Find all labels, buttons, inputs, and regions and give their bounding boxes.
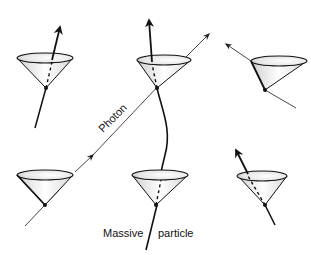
particle-label: particle [158,227,193,239]
photon-label: Photon [96,101,129,134]
light-cone-bottom-middle [132,170,188,207]
massive-particle-tail [146,205,157,250]
light-cone-bottom-left [17,170,73,207]
light-cone-top-middle [137,20,191,90]
light-cone-top-right [226,44,307,108]
massive-label: Massive [103,227,143,239]
light-cone-bottom-right [236,150,287,225]
light-cone-top-left [17,27,73,128]
light-cone-diagram: Photon Massive particle [0,0,311,255]
